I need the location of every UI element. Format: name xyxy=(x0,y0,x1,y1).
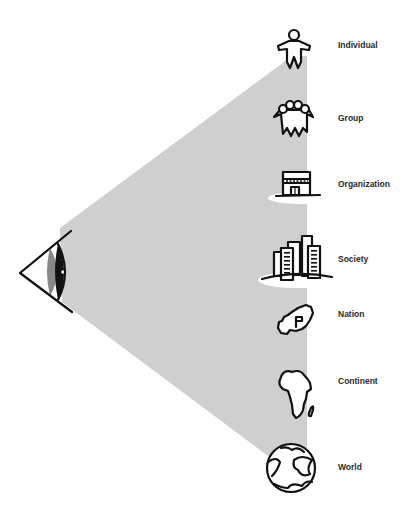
label-individual: Individual xyxy=(338,40,378,50)
label-nation: Nation xyxy=(338,309,364,319)
label-world: World xyxy=(338,462,362,472)
label-continent: Continent xyxy=(338,376,378,386)
label-society: Society xyxy=(338,254,368,264)
view-cone xyxy=(60,56,307,462)
label-group: Group xyxy=(338,113,364,123)
building-icon xyxy=(276,172,320,196)
globe-icon xyxy=(267,444,315,492)
label-organization: Organization xyxy=(338,179,390,189)
